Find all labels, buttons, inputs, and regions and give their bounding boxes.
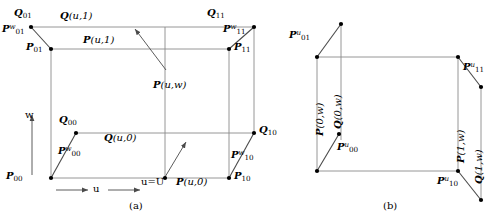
label-curve-p1w: P(1,w) [456,130,466,163]
node-p11 [227,47,231,51]
label-pw01: Pw01 [2,24,25,35]
panel-b-caption: (b) [383,200,397,211]
label-pu11: Pu11 [463,62,484,73]
diagram-canvas [0,0,500,219]
node-q00 [74,131,78,135]
label-curve-puw: P(u,w) [153,80,187,90]
label-p10: P10 [234,171,251,182]
leader-arrow-pu0 [165,142,186,177]
panel-a-geometry [29,25,256,190]
node-b-p00 [315,169,319,173]
label-pw11: Pw11 [223,24,246,35]
node-b-pu11 [479,85,483,89]
figure-root: Q01 Q11 Q00 Q10 P01 P11 P00 P10 Pw01 Pw1… [0,0,500,219]
label-axis-w: w [25,110,34,120]
label-curve-q0w: Q(0,w) [333,94,343,129]
label-curve-pu1: P(u,1) [83,35,114,45]
label-axis-u: u [93,184,99,194]
label-q01: Q01 [14,8,32,19]
label-pu10: Pu10 [437,176,458,187]
label-p11: P11 [234,42,251,53]
label-q10: Q10 [259,125,277,136]
label-pu01: Pu01 [289,30,310,41]
node-p00 [49,176,53,180]
node-q10 [252,131,256,135]
vector-pu01 [317,24,341,57]
vector-pu00 [317,134,339,171]
label-p00: P00 [6,171,23,182]
label-p01: P01 [26,42,43,53]
node-b-pu10 [479,198,483,202]
label-pw10: Pw10 [231,150,254,161]
node-b-pu01 [339,22,343,26]
label-u-equals-U: u=U [141,177,164,187]
node-p01 [49,47,53,51]
node-p10 [227,176,231,180]
node-q11 [252,25,256,29]
p-patch-outline [51,49,229,178]
node-b-p11 [456,55,460,59]
label-pu00: Pu00 [337,142,358,153]
node-q01 [29,25,33,29]
label-curve-p0w: P(0,w) [315,103,325,136]
label-curve-q1w: Q(1,w) [474,149,484,184]
node-b-p01 [315,55,319,59]
label-curve-pu0: P(u,0) [176,177,207,187]
node-b-pu00 [337,132,341,136]
label-pw00: Pw00 [58,146,81,157]
node-b-p10 [456,169,460,173]
panel-a-caption: (a) [129,200,143,211]
label-q00: Q00 [59,115,77,126]
label-q11: Q11 [207,8,225,19]
label-curve-qu0: Q(u,0) [104,133,137,143]
label-curve-qu1: Q(u,1) [60,11,93,21]
leader-arrow-puw [135,29,166,70]
